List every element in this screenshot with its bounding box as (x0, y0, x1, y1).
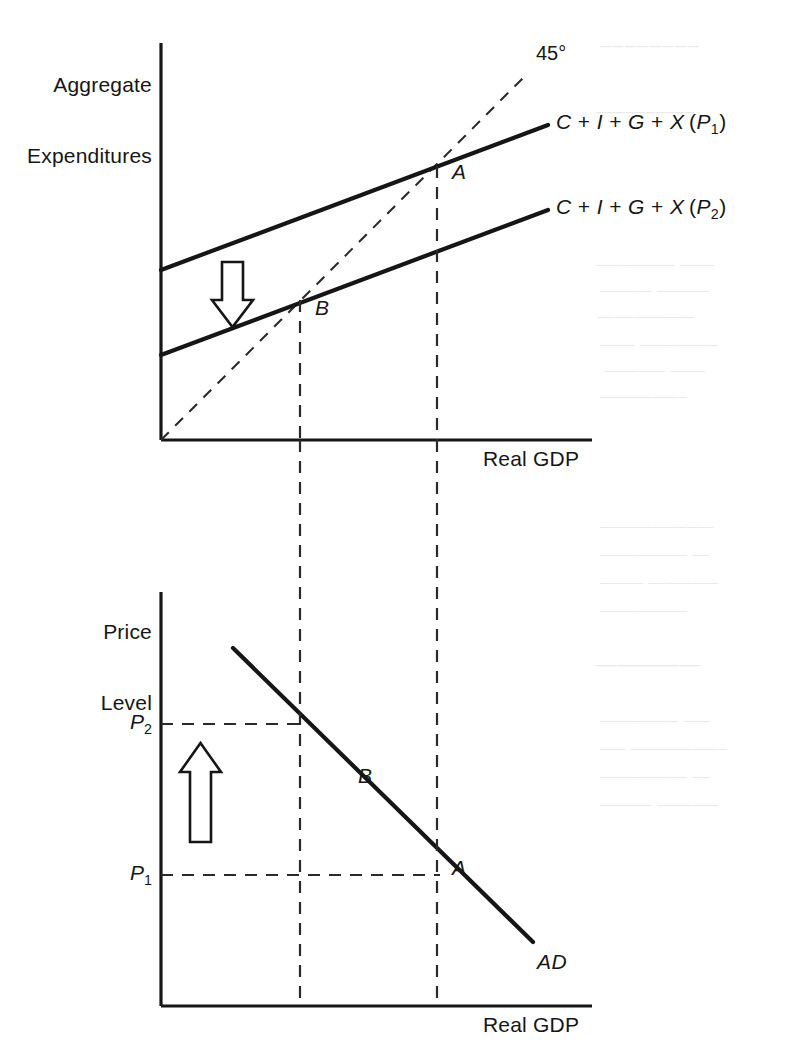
ae-point-b-label: B (315, 296, 329, 320)
ae-p2-term-g: G (628, 195, 645, 218)
ad-point-a-label: A (452, 856, 466, 880)
ae-y-axis-label: Aggregate Expenditures (0, 26, 152, 214)
ae-curve-p1-label: C + I + G + X (P1) (556, 110, 727, 137)
ae-p2-term-sub: 2 (711, 206, 719, 222)
ae-p2-term-c: C (556, 195, 572, 218)
inter-chart-connectors (300, 440, 437, 608)
ae-p1-term-sub: 1 (711, 121, 719, 137)
ad-curve (233, 648, 533, 942)
forty-five-degree-line (161, 73, 528, 440)
forty-five-degree-label: 45° (536, 42, 566, 64)
ae-p1-term-g: G (628, 110, 645, 133)
ad-y-tick-p1: P1 (92, 861, 152, 888)
ad-x-axis-label: Real GDP (483, 1013, 579, 1037)
aggregate-expenditures-chart (161, 43, 592, 440)
aggregate-demand-chart (161, 592, 592, 1006)
shift-arrow-down-icon (212, 262, 253, 327)
ae-curve-p1 (161, 125, 548, 270)
ae-curve-p2-label: C + I + G + X (P2) (556, 195, 727, 222)
ae-y-axis-label-line2: Expenditures (0, 144, 152, 168)
shift-arrow-up-icon (180, 743, 221, 842)
ad-tick-p2-sub: 2 (144, 721, 152, 737)
ae-p2-term-x: X (670, 195, 684, 218)
ae-p1-term-c: C (556, 110, 572, 133)
ae-p1-term-p: P (696, 110, 710, 133)
ae-y-axis-label-line1: Aggregate (0, 73, 152, 97)
ae-curve-p2 (161, 210, 548, 355)
ad-tick-p1-sub: 1 (144, 872, 152, 888)
ae-p2-term-p: P (696, 195, 710, 218)
ad-y-tick-p2: P2 (92, 710, 152, 737)
ad-point-b-label: B (358, 764, 372, 788)
ad-tick-p1-letter: P (130, 861, 144, 884)
ae-x-axis-label: Real GDP (483, 447, 579, 471)
ae-p1-term-x: X (670, 110, 684, 133)
economics-figure: ________ __________ _________ ____ _____… (0, 0, 791, 1063)
ad-y-axis-label-line1: Price (0, 620, 152, 644)
ad-curve-label: AD (537, 950, 567, 974)
ae-point-a-label: A (452, 160, 466, 184)
ad-tick-p2-letter: P (130, 710, 144, 733)
